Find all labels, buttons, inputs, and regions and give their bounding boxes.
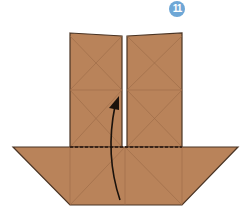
origami-diagram: [0, 0, 241, 214]
right-upper-flap: [127, 33, 182, 147]
left-upper-flap: [70, 33, 122, 147]
lower-trapezoid: [13, 147, 238, 205]
